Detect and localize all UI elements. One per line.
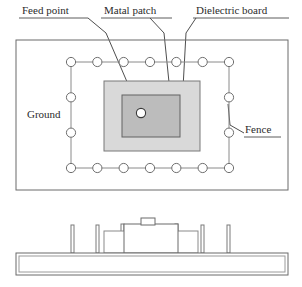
fence-via xyxy=(119,163,128,172)
callout-label-feed-point: Feed point xyxy=(22,4,69,16)
side-view-post xyxy=(96,225,99,253)
leader-dielectric-board xyxy=(183,18,196,88)
fence-via xyxy=(66,93,75,102)
fence-via xyxy=(93,57,102,66)
side-feed-tab xyxy=(141,218,155,225)
side-view xyxy=(16,218,288,275)
feed-point-marker xyxy=(136,108,145,117)
fence-via xyxy=(198,163,207,172)
side-center-block xyxy=(124,224,178,253)
fence-via xyxy=(145,57,154,66)
region-label-fence: Fence xyxy=(245,123,271,135)
callout-label-metal-patch: Matal patch xyxy=(104,4,157,16)
fence-via xyxy=(145,163,154,172)
fence-via xyxy=(224,57,233,66)
region-label-ground: Ground xyxy=(27,108,61,120)
fence-via xyxy=(66,163,75,172)
antenna-structure-figure: Feed point Matal patch Dielectric board … xyxy=(0,0,302,287)
figure-canvas: Feed point Matal patch Dielectric board … xyxy=(0,0,302,287)
fence-via xyxy=(66,57,75,66)
fence-via xyxy=(224,163,233,172)
fence-via xyxy=(224,93,233,102)
fence-via xyxy=(224,128,233,137)
callout-labels: Feed point Matal patch Dielectric board xyxy=(19,4,289,18)
fence-via xyxy=(198,57,207,66)
side-view-post xyxy=(71,225,74,253)
side-view-post xyxy=(201,225,204,253)
fence-via xyxy=(172,57,181,66)
side-view-post xyxy=(227,225,230,253)
metal-patch-rect xyxy=(122,95,180,137)
fence-via xyxy=(66,128,75,137)
fence-via xyxy=(119,57,128,66)
side-inner-slab xyxy=(19,256,285,272)
callout-label-dielectric-board: Dielectric board xyxy=(196,4,268,16)
fence-via xyxy=(172,163,181,172)
fence-via xyxy=(93,163,102,172)
